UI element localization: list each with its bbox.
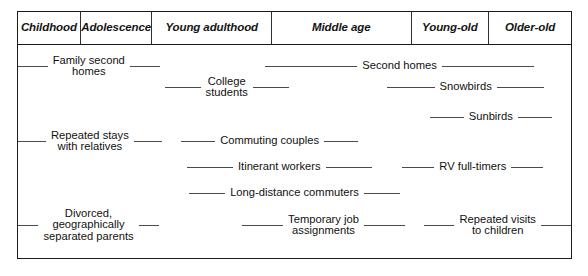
mobility-span-label: Divorced, geographically separated paren… <box>38 207 138 242</box>
mobility-span-area: Family second homesSecond homesCollege s… <box>18 45 571 258</box>
leader-line-right <box>139 225 159 226</box>
leader-line-right <box>134 141 162 142</box>
stage-label: Adolescence <box>81 22 151 34</box>
leader-line-right <box>253 87 289 88</box>
mobility-span-label: RV full-timers <box>434 161 511 173</box>
mobility-span-label: Temporary job assignments <box>283 213 364 236</box>
leader-line-left <box>18 225 38 226</box>
mobility-span-label: Sunbirds <box>464 111 518 123</box>
leader-line-left <box>242 225 283 226</box>
stage-cell-young-adulthood: Young adulthood <box>152 12 272 44</box>
mobility-span-label: Repeated stays with relatives <box>46 129 134 152</box>
leader-line-left <box>165 87 201 88</box>
stage-cell-young-old: Young-old <box>412 12 490 44</box>
stage-label: Childhood <box>21 22 77 34</box>
mobility-span-label: Family second homes <box>48 54 130 77</box>
leader-line-left <box>402 167 434 168</box>
leader-line-right <box>541 225 571 226</box>
leader-line-right <box>364 193 400 194</box>
stage-cell-adolescence: Adolescence <box>81 12 153 44</box>
leader-line-right <box>326 167 372 168</box>
mobility-span-label: Second homes <box>357 60 442 72</box>
leader-line-left <box>18 66 48 67</box>
leader-line-left <box>387 87 434 88</box>
stage-label: Young adulthood <box>165 22 258 34</box>
mobility-span-label: Commuting couples <box>215 135 324 147</box>
leader-line-right <box>442 66 534 67</box>
leader-line-left <box>424 225 454 226</box>
stage-label: Young-old <box>422 22 478 34</box>
leader-line-right <box>364 225 405 226</box>
stage-cell-childhood: Childhood <box>18 12 81 44</box>
mobility-span-label: Repeated visits to children <box>454 213 541 236</box>
leader-line-right <box>497 87 544 88</box>
leader-line-left <box>265 66 357 67</box>
mobility-span-label: Snowbirds <box>435 81 497 93</box>
leader-line-left <box>181 141 215 142</box>
stage-label: Older-old <box>505 22 555 34</box>
leader-line-right <box>511 167 543 168</box>
stage-label: Middle age <box>312 22 370 34</box>
leader-line-left <box>189 193 225 194</box>
stage-cell-older-old: Older-old <box>489 12 571 44</box>
leader-line-right <box>130 66 160 67</box>
leader-line-left <box>430 117 464 118</box>
leader-line-left <box>18 141 46 142</box>
mobility-span-label: Long-distance commuters <box>225 187 364 199</box>
leader-line-right <box>324 141 358 142</box>
stage-cell-middle-age: Middle age <box>272 12 412 44</box>
mobility-span-label: Itinerant workers <box>233 161 326 173</box>
mobility-span-label: College students <box>201 75 253 98</box>
leader-line-right <box>518 117 552 118</box>
leader-line-left <box>187 167 233 168</box>
stage-header-row: ChildhoodAdolescenceYoung adulthoodMiddl… <box>18 12 571 45</box>
life-course-diagram: ChildhoodAdolescenceYoung adulthoodMiddl… <box>17 11 572 259</box>
